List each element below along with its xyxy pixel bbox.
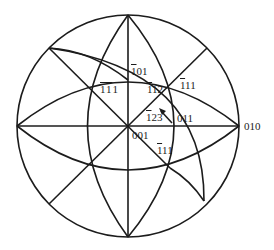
pole-label-bar111: 111 <box>180 80 196 91</box>
pole-label-bar123: 123 <box>146 112 163 123</box>
pole-label-bar: 11 <box>100 83 113 95</box>
pole-label-text: 001 <box>132 129 149 141</box>
pole-label-001: 001 <box>132 130 149 141</box>
great-circle-arc-nw <box>49 48 128 80</box>
pole-label-text: 12 <box>152 83 163 95</box>
pole-label-010: 010 <box>244 121 261 132</box>
pole-label-text: 010 <box>244 120 261 132</box>
pole-label-bar112: 112 <box>147 84 163 95</box>
great-circle-arc-se <box>170 168 204 201</box>
stereographic-projection <box>0 0 274 250</box>
pole-label-text: 11 <box>185 79 196 91</box>
pole-label-011: 011 <box>177 113 193 124</box>
pole-label-bar101: 101 <box>131 66 148 77</box>
pole-label-bar1bar11: 111 <box>100 84 118 95</box>
pole-label-111-lower: 111 <box>157 145 173 156</box>
pole-label-text: 011 <box>177 112 193 124</box>
pole-label-text: 23 <box>152 111 163 123</box>
great-circle-diagonal-nw-se <box>49 48 170 168</box>
pole-label-text: 11 <box>162 144 173 156</box>
pole-label-text: 01 <box>137 65 148 77</box>
pole-label-text: 1 <box>113 83 119 95</box>
